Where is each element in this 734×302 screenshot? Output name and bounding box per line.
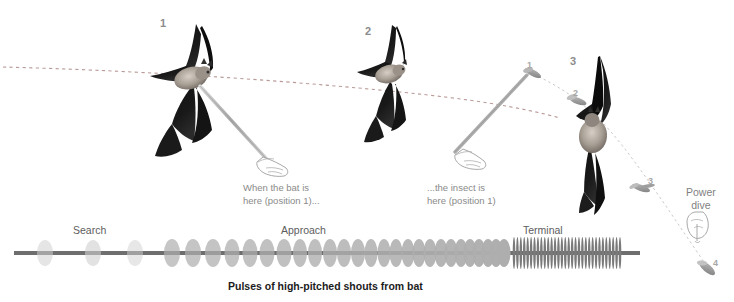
pulse-terminal <box>605 237 608 269</box>
insect-label-1: 1 <box>527 61 532 70</box>
pulse-terminal <box>564 237 567 269</box>
bat-label-1: 1 <box>160 18 166 29</box>
pulse-terminal <box>567 237 570 269</box>
pulse-terminal <box>585 237 588 269</box>
pulse-terminal <box>530 237 533 269</box>
phase-label-search: Search <box>73 225 106 236</box>
pulse-approach <box>337 239 351 267</box>
pulse-approach <box>277 239 292 267</box>
power-dive-label: Power dive <box>686 186 716 211</box>
pulse-terminal <box>598 237 601 269</box>
callout-insect-line1: ...the insect is <box>427 181 496 194</box>
pulse-terminal <box>595 237 598 269</box>
pulse-terminal <box>571 237 574 269</box>
power-dive-line1: Power <box>686 186 716 199</box>
pulse-terminal <box>581 237 584 269</box>
pulse-terminal <box>543 237 546 269</box>
pointing-hand-2 <box>455 149 486 169</box>
pointer-rod-2 <box>455 75 527 152</box>
pulse-terminal <box>615 237 618 269</box>
pulse-terminal <box>537 237 540 269</box>
pulse-approach <box>378 239 391 267</box>
pulse-terminal <box>588 237 591 269</box>
bat-figure-2 <box>357 25 407 142</box>
pointing-hand-1 <box>257 157 288 176</box>
pulse-terminal <box>533 237 536 269</box>
pulse-terminal <box>591 237 594 269</box>
pulse-terminal <box>523 237 526 269</box>
pulse-approach <box>498 239 511 267</box>
pulse-approach <box>260 239 275 267</box>
figure-root: 1 2 3 1 2 3 4 When the bat is here (posi… <box>0 0 734 302</box>
bat-figure-3 <box>576 56 611 215</box>
pulse-terminal <box>550 237 553 269</box>
power-dive-line2: dive <box>686 199 716 212</box>
pulse-terminal <box>578 237 581 269</box>
figure-caption: Pulses of high-pitched shouts from bat <box>228 281 423 292</box>
callout-insect-line2: here (position 1) <box>427 194 496 207</box>
pulse-terminal <box>608 237 611 269</box>
callout-bat-line2: here (position 1)... <box>243 194 320 207</box>
callout-insect-position: ...the insect is here (position 1) <box>427 181 496 207</box>
callout-bat-position: When the bat is here (position 1)... <box>243 181 320 207</box>
pulse-approach <box>308 239 322 267</box>
insect-label-3: 3 <box>648 177 653 186</box>
bat-label-2: 2 <box>365 26 371 37</box>
pulse-terminal <box>619 237 622 269</box>
bat-flight-path <box>3 67 560 118</box>
insect-label-2: 2 <box>573 89 578 98</box>
phase-label-terminal: Terminal <box>523 225 563 236</box>
diagram-canvas <box>0 0 734 302</box>
pulse-terminal <box>540 237 543 269</box>
pulse-approach <box>293 239 307 267</box>
pulse-approach <box>390 239 403 267</box>
insect-label-4: 4 <box>713 259 718 268</box>
callout-bat-line1: When the bat is <box>243 181 320 194</box>
pulse-approach <box>243 239 258 267</box>
pulse-terminal <box>574 237 577 269</box>
pulse-approach <box>351 239 365 267</box>
pulse-terminal <box>557 237 560 269</box>
pulse-approach <box>225 239 240 267</box>
pulse-approach <box>365 239 378 267</box>
pulse-search <box>37 240 53 266</box>
pulse-terminal <box>526 237 529 269</box>
pulse-approach <box>323 239 337 267</box>
pulse-terminal <box>612 237 615 269</box>
pulse-terminal <box>520 237 523 269</box>
pulse-search <box>127 240 143 266</box>
power-dive-hand-icon <box>687 212 708 243</box>
pulse-terminal <box>547 237 550 269</box>
pulse-train <box>14 237 640 269</box>
phase-label-approach: Approach <box>281 225 326 236</box>
bat-label-3: 3 <box>570 56 576 67</box>
pulse-terminal <box>602 237 605 269</box>
pulse-approach <box>185 239 201 267</box>
pulse-terminal <box>554 237 557 269</box>
pulse-approach <box>164 239 180 267</box>
pulse-approach <box>205 239 221 267</box>
pulse-terminal <box>561 237 564 269</box>
pulse-terminal <box>516 237 519 269</box>
pulse-search <box>85 240 101 266</box>
pulse-terminal <box>513 237 516 269</box>
